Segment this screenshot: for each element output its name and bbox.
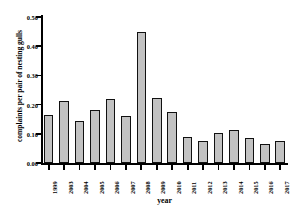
x-axis-tick-labels: 1999200320042005200620072008200920102011… bbox=[41, 170, 288, 196]
x-tick-mark bbox=[264, 165, 266, 170]
bar bbox=[275, 141, 285, 163]
x-tick-label: 2009 bbox=[159, 181, 166, 194]
x-tick-label: 2014 bbox=[237, 181, 244, 194]
x-tick-label: 2012 bbox=[206, 181, 213, 194]
bar bbox=[137, 32, 147, 163]
x-tick-label: 2010 bbox=[175, 181, 182, 194]
bar bbox=[59, 101, 69, 163]
bar bbox=[183, 137, 193, 163]
x-tick-mark bbox=[233, 165, 235, 170]
x-tick-label: 2011 bbox=[190, 182, 197, 194]
x-tick-mark bbox=[110, 165, 112, 170]
bar bbox=[198, 141, 208, 163]
y-tick-mark bbox=[36, 104, 41, 106]
x-tick-mark bbox=[48, 165, 50, 170]
x-tick-label: 2006 bbox=[113, 181, 120, 194]
x-tick-label: 1999 bbox=[51, 181, 58, 194]
x-tick-mark bbox=[187, 165, 189, 170]
y-tick-mark bbox=[36, 162, 41, 164]
x-tick-mark bbox=[249, 165, 251, 170]
x-tick-mark bbox=[171, 165, 173, 170]
bar bbox=[44, 115, 54, 163]
bar bbox=[229, 130, 239, 163]
y-tick-mark bbox=[36, 75, 41, 77]
x-tick-mark bbox=[218, 165, 220, 170]
x-tick-mark bbox=[279, 165, 281, 170]
x-tick-mark bbox=[79, 165, 81, 170]
x-tick-mark bbox=[140, 165, 142, 170]
x-tick-label: 2008 bbox=[144, 181, 151, 194]
bars-layer bbox=[41, 0, 288, 165]
x-tick-label: 2007 bbox=[129, 181, 136, 194]
x-tick-mark bbox=[202, 165, 204, 170]
x-tick-label: 2003 bbox=[67, 181, 74, 194]
bar bbox=[121, 116, 131, 163]
x-axis-title: year bbox=[41, 196, 288, 206]
x-tick-label: 2004 bbox=[82, 181, 89, 194]
x-tick-mark bbox=[156, 165, 158, 170]
bar bbox=[167, 112, 177, 163]
bar bbox=[245, 138, 255, 163]
x-tick-label: 2016 bbox=[267, 181, 274, 194]
bar bbox=[260, 144, 270, 163]
x-tick-label: 2015 bbox=[252, 181, 259, 194]
x-tick-mark bbox=[63, 165, 65, 170]
x-tick-mark bbox=[94, 165, 96, 170]
x-tick-label: 2017 bbox=[283, 181, 290, 194]
bar bbox=[75, 121, 85, 163]
x-tick-mark bbox=[125, 165, 127, 170]
bar bbox=[152, 98, 162, 163]
x-tick-label: 2005 bbox=[98, 181, 105, 194]
bar bbox=[214, 133, 224, 163]
y-tick-mark bbox=[36, 133, 41, 135]
bar bbox=[106, 99, 116, 163]
x-tick-label: 2013 bbox=[221, 181, 228, 194]
y-tick-mark bbox=[36, 16, 41, 18]
bar-chart: complaints per pair of nesting gulls 0.0… bbox=[0, 0, 297, 210]
y-tick-mark bbox=[36, 45, 41, 47]
bar bbox=[90, 110, 100, 163]
